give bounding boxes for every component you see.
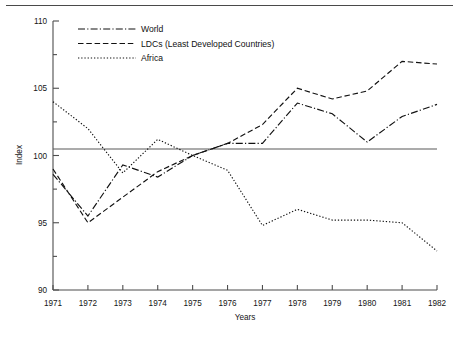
y-tick-label-105: 105 (33, 84, 47, 93)
x-tick-label-1977: 1977 (253, 299, 272, 308)
x-tick-label-1974: 1974 (149, 299, 168, 308)
series-lines (53, 61, 437, 251)
chart-legend: WorldLDCs (Least Developed Countries)Afr… (78, 24, 274, 63)
x-tick-label-1979: 1979 (323, 299, 342, 308)
series-line-africa (53, 102, 437, 251)
y-axis-major-ticks (53, 21, 59, 290)
x-axis-ticks (53, 285, 437, 290)
x-tick-label-1976: 1976 (218, 299, 237, 308)
chart-svg: 9095100105110 19711972197319741975197619… (0, 0, 459, 337)
x-tick-label-1981: 1981 (393, 299, 412, 308)
y-tick-label-95: 95 (38, 219, 48, 228)
y-tick-label-90: 90 (38, 286, 48, 295)
x-axis-tick-labels: 1971197219731974197519761977197819791980… (44, 299, 447, 308)
x-tick-label-1982: 1982 (428, 299, 447, 308)
x-tick-label-1972: 1972 (79, 299, 98, 308)
y-axis-title: Index (15, 145, 24, 165)
legend-label-africa: Africa (141, 53, 163, 63)
legend-label-world: World (141, 24, 164, 34)
series-line-world (53, 103, 437, 216)
y-tick-label-110: 110 (34, 17, 47, 26)
y-tick-label-100: 100 (33, 152, 47, 161)
chart-page: 9095100105110 19711972197319741975197619… (0, 0, 459, 337)
legend-label-ldcs-least-developed-countries: LDCs (Least Developed Countries) (141, 39, 274, 49)
line-chart: 9095100105110 19711972197319741975197619… (0, 0, 459, 337)
x-tick-label-1971: 1971 (44, 299, 63, 308)
x-tick-label-1980: 1980 (358, 299, 377, 308)
x-tick-label-1973: 1973 (114, 299, 133, 308)
x-tick-label-1978: 1978 (288, 299, 307, 308)
x-tick-label-1975: 1975 (184, 299, 203, 308)
x-axis-title: Years (235, 313, 256, 322)
series-line-ldcs-least-developed-countries (53, 61, 437, 222)
y-axis-tick-labels: 9095100105110 (33, 17, 47, 295)
